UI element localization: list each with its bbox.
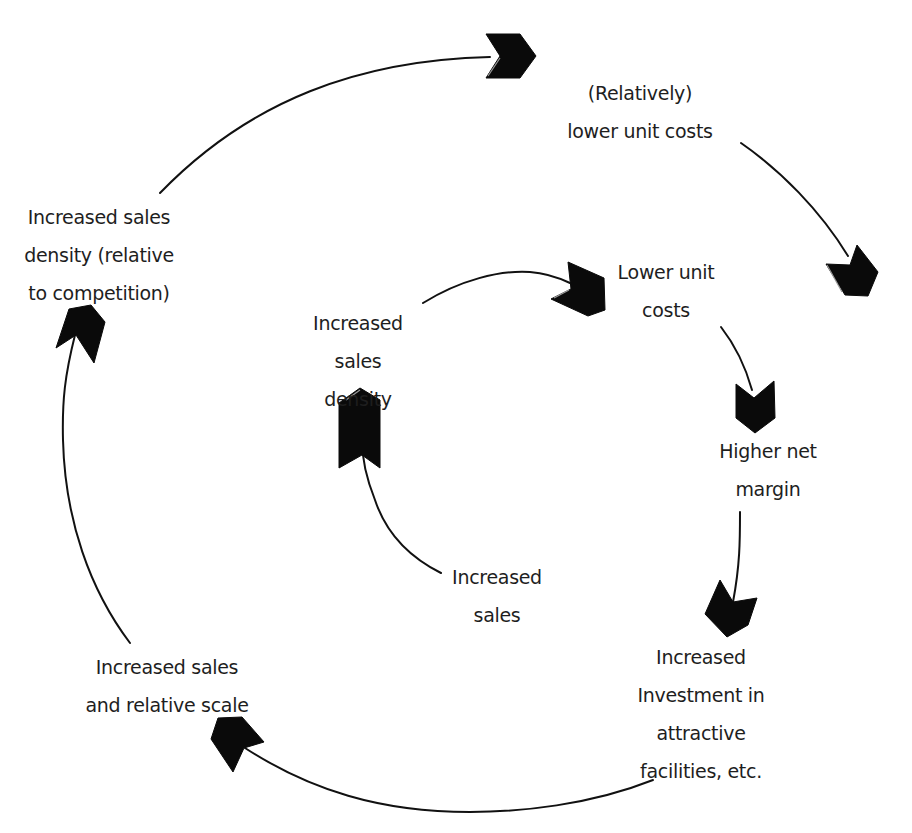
edge-outer-costs-to-margin-arrow	[741, 143, 848, 256]
arrowhead-inner-costs-icon	[551, 262, 605, 316]
node-increased-sales: Increased sales	[452, 558, 542, 634]
node-increased-sales-relative-scale: Increased sales and relative scale	[85, 648, 248, 724]
arrowhead-scale-icon	[211, 717, 264, 772]
edge-margin-to-investment	[733, 512, 740, 602]
arrowhead-margin-icon	[736, 381, 775, 433]
node-higher-net-margin: Higher net margin	[719, 432, 816, 508]
node-increased-investment: Increased Investment in attractive facil…	[637, 638, 764, 790]
node-increased-sales-density-relative: Increased sales density (relative to com…	[24, 198, 174, 312]
arrowhead-top-right-icon	[486, 34, 536, 78]
edge-density-relative-to-outer-costs	[160, 57, 490, 193]
edge-lower-costs-to-margin	[721, 327, 752, 390]
edge-investment-to-scale	[245, 748, 653, 812]
node-lower-unit-costs: Lower unit costs	[618, 253, 715, 329]
arrowhead-right-down-icon	[826, 245, 878, 296]
edge-scale-to-density-relative	[63, 335, 130, 643]
feedback-loop-diagram: (Relatively) lower unit costs Increased …	[0, 0, 912, 833]
node-relatively-lower-unit-costs: (Relatively) lower unit costs	[567, 74, 712, 150]
arrowhead-density-relative-icon	[56, 305, 105, 363]
edge-inner-density-to-lower-costs	[423, 272, 570, 303]
arrowhead-investment-icon	[705, 580, 757, 637]
node-increased-sales-density: Increased sales density	[313, 304, 403, 418]
